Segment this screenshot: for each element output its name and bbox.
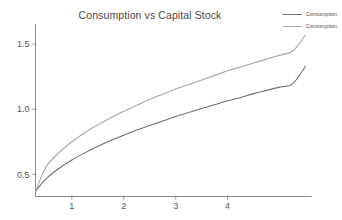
series-layer [36, 35, 306, 191]
legend-label-0: Consumption [306, 10, 337, 19]
chart-legend: Consumption Consumption [281, 9, 339, 32]
legend-entry-0[interactable]: Consumption [283, 10, 337, 19]
legend-swatch-line-0 [283, 14, 302, 15]
y-tick-label: 0.5 [17, 170, 30, 180]
x-tick-label: 1 [69, 201, 74, 211]
x-tick-label: 2 [121, 201, 126, 211]
chart-container: Consumption vs Capital Stock 0.51.01.512… [0, 0, 342, 220]
x-tick-label: 3 [173, 201, 178, 211]
x-tick-label: 4 [225, 201, 230, 211]
tick-marks-layer [33, 44, 228, 199]
legend-label-1: Consumption [306, 22, 337, 31]
legend-entry-1[interactable]: Consumption [283, 22, 337, 31]
y-tick-label: 1.0 [17, 104, 30, 114]
series-line-0 [36, 66, 306, 191]
legend-swatch-line-1 [283, 26, 302, 27]
tick-labels-layer: 0.51.01.51234 [17, 39, 230, 210]
y-tick-label: 1.5 [17, 39, 30, 49]
axes-layer [36, 25, 312, 197]
series-line-1 [36, 35, 306, 191]
plot-area: 0.51.01.51234 [0, 0, 342, 220]
